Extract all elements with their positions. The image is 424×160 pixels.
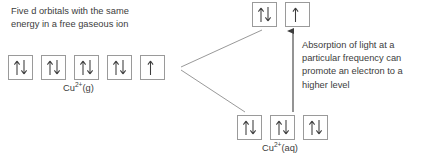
spin-pair-up-down-icon — [42, 56, 65, 79]
spin-pair-up-down-icon — [304, 116, 327, 139]
splitting-line-upper — [181, 30, 262, 67]
orbital-row-excited — [252, 2, 310, 27]
orbital-box-aqueous-2 — [270, 115, 295, 140]
spin-single-up-icon — [141, 56, 164, 79]
orbital-box-gaseous-3 — [74, 55, 99, 80]
free-ion-caption: Five d orbitals with the same energy in … — [11, 5, 191, 31]
orbital-box-aqueous-3 — [303, 115, 328, 140]
orbital-box-excited-1 — [252, 2, 277, 27]
spin-pair-up-down-icon — [253, 3, 276, 26]
spin-single-up-icon — [286, 3, 309, 26]
splitting-line-lower — [181, 70, 245, 112]
orbital-box-gaseous-5 — [140, 55, 165, 80]
spin-pair-up-down-icon — [271, 116, 294, 139]
state-label-gaseous-prefix: Cu — [63, 83, 75, 93]
orbital-row-gaseous — [8, 55, 165, 80]
orbital-box-gaseous-4 — [107, 55, 132, 80]
orbital-energy-diagram: Five d orbitals with the same energy in … — [0, 0, 424, 160]
state-label-aqueous: Cu2+(aq) — [262, 143, 298, 154]
state-label-gaseous-state: (g) — [82, 83, 93, 93]
state-label-aqueous-state: (aq) — [281, 143, 298, 153]
absorption-caption: Absorption of light at a particular freq… — [302, 39, 420, 92]
orbital-row-aqueous — [237, 115, 328, 140]
spin-pair-up-down-icon — [108, 56, 131, 79]
orbital-box-aqueous-1 — [237, 115, 262, 140]
spin-pair-up-down-icon — [9, 56, 32, 79]
spin-pair-up-down-icon — [238, 116, 261, 139]
orbital-box-excited-2 — [285, 2, 310, 27]
orbital-box-gaseous-2 — [41, 55, 66, 80]
spin-pair-up-down-icon — [75, 56, 98, 79]
state-label-gaseous: Cu2+(g) — [63, 83, 94, 94]
orbital-box-gaseous-1 — [8, 55, 33, 80]
state-label-aqueous-prefix: Cu — [262, 143, 274, 153]
